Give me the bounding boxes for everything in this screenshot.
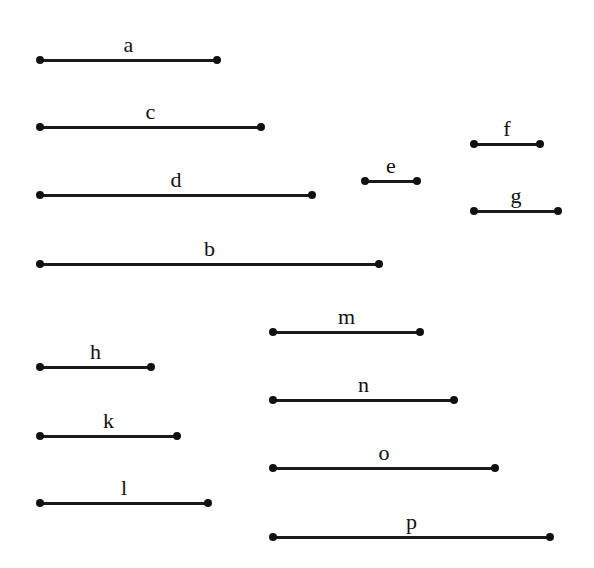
endpoint-dot-icon [269, 533, 277, 541]
endpoint-dot-icon [450, 396, 458, 404]
endpoint-dot-icon [36, 432, 44, 440]
endpoint-dot-icon [147, 363, 155, 371]
endpoint-dot-icon [413, 177, 421, 185]
segment-line [273, 467, 495, 470]
segment-label: f [474, 118, 540, 140]
segment-label: l [40, 477, 208, 499]
segment-label: b [40, 238, 379, 260]
segment-label: g [474, 185, 558, 207]
endpoint-dot-icon [491, 464, 499, 472]
endpoint-dot-icon [269, 328, 277, 336]
segment-line [474, 210, 558, 213]
endpoint-dot-icon [36, 260, 44, 268]
segment-line [40, 59, 217, 62]
segment-label: p [273, 511, 550, 533]
endpoint-dot-icon [269, 464, 277, 472]
endpoint-dot-icon [361, 177, 369, 185]
segment-label: k [40, 410, 177, 432]
segment-label: e [365, 155, 417, 177]
segment-label: h [40, 341, 151, 363]
endpoint-dot-icon [257, 123, 265, 131]
segment-line [365, 180, 417, 183]
endpoint-dot-icon [36, 123, 44, 131]
segment-label: c [40, 101, 261, 123]
segment-line [40, 263, 379, 266]
segment-line [40, 126, 261, 129]
endpoint-dot-icon [416, 328, 424, 336]
segment-diagram: a c d b e f g m [0, 0, 594, 568]
segment-line [40, 502, 208, 505]
endpoint-dot-icon [36, 363, 44, 371]
endpoint-dot-icon [36, 56, 44, 64]
endpoint-dot-icon [554, 207, 562, 215]
endpoint-dot-icon [536, 140, 544, 148]
segment-line [273, 399, 454, 402]
endpoint-dot-icon [375, 260, 383, 268]
segment-label: o [273, 442, 495, 464]
segment-label: d [40, 169, 312, 191]
segment-line [40, 366, 151, 369]
segment-line [40, 194, 312, 197]
endpoint-dot-icon [470, 207, 478, 215]
segment-label: a [40, 34, 217, 56]
endpoint-dot-icon [470, 140, 478, 148]
endpoint-dot-icon [36, 191, 44, 199]
endpoint-dot-icon [204, 499, 212, 507]
segment-line [273, 536, 550, 539]
segment-line [474, 143, 540, 146]
segment-line [40, 435, 177, 438]
endpoint-dot-icon [269, 396, 277, 404]
endpoint-dot-icon [308, 191, 316, 199]
segment-label: m [273, 306, 420, 328]
segment-label: n [273, 374, 454, 396]
endpoint-dot-icon [173, 432, 181, 440]
endpoint-dot-icon [213, 56, 221, 64]
segment-line [273, 331, 420, 334]
endpoint-dot-icon [36, 499, 44, 507]
endpoint-dot-icon [546, 533, 554, 541]
